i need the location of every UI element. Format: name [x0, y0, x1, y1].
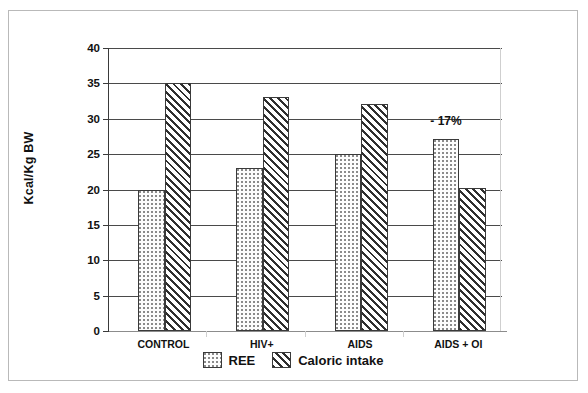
axis-baseline [109, 331, 507, 332]
bar-aids-oi-caloric-intake [459, 188, 486, 331]
y-tick-15 [103, 225, 109, 226]
x-axis-separator-3 [403, 331, 404, 337]
y-tick-label-35: 35 [87, 77, 100, 89]
y-tick-label-5: 5 [94, 290, 100, 302]
plot-area: 0510152025303540- 17% [108, 48, 501, 331]
y-tick-5 [103, 296, 109, 297]
gridline-40 [109, 48, 502, 49]
plot-region: 0510152025303540- 17% CONTROLHIV+AIDSAID… [108, 38, 501, 331]
legend-item-caloric-intake: Caloric intake [272, 352, 383, 368]
x-axis-label-aids-oi: AIDS + OI [434, 338, 482, 350]
bar-aids-oi-ree [433, 139, 460, 331]
bar-control-ree [138, 190, 165, 332]
y-tick-label-0: 0 [94, 325, 100, 337]
legend-swatch-caloric-intake-icon [272, 352, 291, 368]
legend-swatch-ree-icon [203, 352, 222, 368]
x-axis-separator-1 [206, 331, 207, 337]
y-axis-title: Kcal/Kg BW [22, 78, 36, 258]
y-tick-25 [103, 154, 109, 155]
x-axis-label-aids: AIDS [347, 338, 372, 350]
bar-hiv-ree [236, 168, 263, 331]
y-tick-35 [103, 83, 109, 84]
bar-control-caloric-intake [165, 83, 192, 331]
x-axis-separator-2 [305, 331, 306, 337]
y-tick-label-30: 30 [87, 113, 100, 125]
y-tick-label-40: 40 [87, 42, 100, 54]
legend-label-caloric-intake: Caloric intake [298, 353, 383, 368]
x-axis-label-control: CONTROL [138, 338, 190, 350]
y-tick-40 [103, 48, 109, 49]
x-axis-label-hiv: HIV+ [250, 338, 274, 350]
bar-hiv-caloric-intake [263, 97, 290, 331]
legend-label-ree: REE [229, 353, 256, 368]
chart-figure: Kcal/Kg BW 0510152025303540- 17% CONTROL… [8, 10, 578, 381]
y-tick-label-25: 25 [87, 148, 100, 160]
y-tick-label-15: 15 [87, 219, 100, 231]
y-tick-20 [103, 190, 109, 191]
bar-aids-caloric-intake [361, 104, 388, 331]
y-tick-10 [103, 260, 109, 261]
bar-aids-ree [335, 154, 362, 331]
y-tick-label-20: 20 [87, 184, 100, 196]
y-tick-30 [103, 119, 109, 120]
y-tick-label-10: 10 [87, 254, 100, 266]
plot-right-edge [500, 48, 501, 331]
legend-item-ree: REE [203, 352, 256, 368]
chart-legend: REE Caloric intake [9, 352, 577, 368]
y-tick-0 [103, 331, 109, 332]
annotation-percent-change: - 17% [430, 114, 461, 128]
